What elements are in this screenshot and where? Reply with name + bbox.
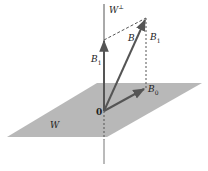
orthogonal-projection-diagram: W⊥ B B1 B1 B0 0 W [0, 0, 208, 171]
label-b1-left: B1 [91, 55, 101, 66]
label-w-perp: W⊥ [109, 4, 124, 15]
dashed-b1-to-b [104, 18, 146, 40]
label-b: B [128, 34, 135, 43]
diagram-canvas [0, 0, 208, 171]
label-plane-w: W [50, 121, 59, 130]
label-b0: B0 [148, 85, 158, 96]
label-b1-right: B1 [150, 33, 160, 44]
label-origin: 0 [96, 108, 102, 117]
